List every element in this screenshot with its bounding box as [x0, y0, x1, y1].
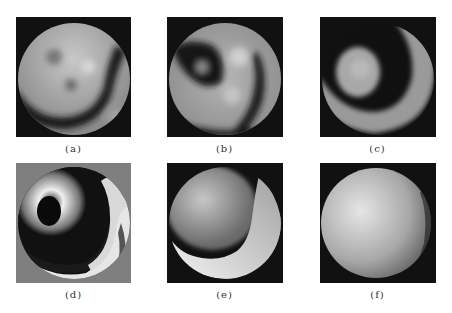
- phase-image-f: [320, 163, 436, 283]
- figure-panel-d: [16, 163, 131, 283]
- caption-d: (d): [16, 289, 131, 300]
- figure-panel-e: [167, 163, 283, 283]
- caption-c: (c): [320, 143, 435, 154]
- caption-e: (e): [167, 289, 282, 300]
- caption-f: (f): [320, 289, 435, 300]
- caption-a: (a): [16, 143, 131, 154]
- phase-image-c: [320, 17, 436, 137]
- caption-b: (b): [167, 143, 282, 154]
- phase-image-b: [167, 17, 283, 137]
- phase-image-e: [167, 163, 283, 283]
- figure-panel-c: [320, 17, 436, 137]
- figure-panel-b: [167, 17, 283, 137]
- figure-panel-f: [320, 163, 436, 283]
- phase-image-d: [16, 163, 131, 283]
- phase-image-a: [16, 17, 131, 137]
- figure-panel-a: [16, 17, 131, 137]
